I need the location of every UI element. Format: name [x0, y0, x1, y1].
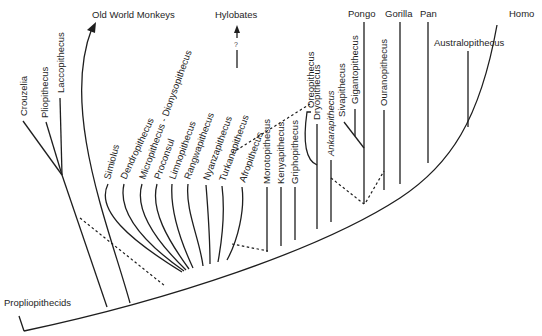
homo-label: Homo	[509, 8, 534, 19]
main-trunk-curve	[19, 25, 497, 331]
taxon-label-ouranopithecus: Ouranopithecus	[378, 39, 389, 106]
limnopithecus-branch	[172, 184, 193, 268]
dashed-link-ouranopithecus	[366, 171, 384, 202]
gorilla-label: Gorilla	[385, 8, 413, 19]
taxon-label-dryopithecus: Dryopithecus	[311, 64, 322, 120]
taxon-label-crouzelia: Crouzelia	[18, 75, 29, 116]
old-world-monkeys-label: Old World Monkeys	[92, 9, 175, 20]
taxon-label-morotopithecus: Morotopithecus	[261, 119, 272, 184]
turkanapithecus-branch	[218, 186, 223, 262]
rangwapithecus-branch	[188, 184, 203, 266]
early-catarrhine-stem	[62, 175, 107, 307]
crouzelia-branch	[23, 121, 62, 175]
hylobates-uncertain-mark: ?	[234, 41, 238, 48]
taxon-label-ankarapithecus: Ankarapithecus	[325, 90, 336, 157]
taxon-label-griphopithecus: Griphopithecus	[289, 120, 300, 184]
taxon-label-gigantopithecus: Gigantopithecus	[349, 35, 360, 104]
taxon-label-laccopithecus: Laccopithecus	[55, 32, 66, 93]
australopithecus-label: Australopithecus	[434, 37, 504, 48]
afropithecus-branch	[227, 187, 243, 260]
sivapithecus-branch	[344, 122, 364, 148]
taxon-label-pliopithecus: Pliopithecus	[39, 67, 50, 118]
pliopithecus-branch	[46, 122, 62, 175]
hominoid-phylogeny-diagram: ? Old World Monkeys Hylobates Pongo Gori…	[0, 0, 542, 336]
pongo-label: Pongo	[348, 8, 375, 19]
nyanzapithecus-branch	[206, 185, 210, 264]
hylobates-label: Hylobates	[215, 9, 257, 20]
old-world-monkeys-arrowhead	[87, 22, 96, 33]
taxon-label-kenyapithecus: Kenyapithecus	[275, 121, 286, 184]
taxon-label-sivapithecus: Sivapithecus	[336, 63, 347, 117]
hylobates-arrowhead	[234, 25, 240, 33]
pan-label: Pan	[420, 8, 437, 19]
root-label-propliopithecids: Propliopithecids	[4, 297, 71, 308]
laccopithecus-branch	[60, 98, 62, 175]
dashed-link-morotopithecus	[232, 244, 268, 251]
dashed-link-ankarapithecus	[331, 178, 364, 204]
